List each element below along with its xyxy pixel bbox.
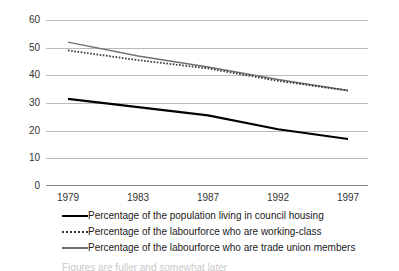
legend-item-working-class: Percentage of the labourforce who are wo… [62,224,392,240]
dotted-line-icon [62,226,88,238]
x-tick-1992: 1992 [258,192,298,204]
y-tick-10: 10 [0,153,40,163]
y-tick-50: 50 [0,43,40,53]
legend-item-council-housing: Percentage of the population living in c… [62,208,392,224]
series-container [46,20,368,186]
y-tick-0: 0 [0,181,40,191]
series-line-trade-union-members [68,42,348,90]
x-tick-1983: 1983 [118,192,158,204]
line-chart: 60 50 40 30 20 10 0 1979 1983 1987 1992 … [0,0,399,271]
y-tick-20: 20 [0,126,40,136]
chart-legend: Percentage of the population living in c… [62,208,392,256]
y-tick-60: 60 [0,15,40,25]
solid-grey-line-icon [62,242,88,254]
y-tick-40: 40 [0,70,40,80]
solid-black-line-icon [62,210,88,222]
legend-item-trade-union-members: Percentage of the labourforce who are tr… [62,240,392,256]
x-axis-labels: 1979 1983 1987 1992 1997 [0,192,399,206]
x-tick-1997: 1997 [328,192,368,204]
legend-label-working-class: Percentage of the labourforce who are wo… [88,226,321,238]
series-line-council-housing [68,99,348,139]
series-line-working-class [68,50,348,90]
footnote-clipped: Figures are fuller and somewhat later [62,262,392,271]
x-tick-1987: 1987 [188,192,228,204]
legend-label-trade-union-members: Percentage of the labourforce who are tr… [88,242,355,254]
y-axis-labels: 60 50 40 30 20 10 0 [0,0,40,271]
x-tick-1979: 1979 [48,192,88,204]
legend-label-council-housing: Percentage of the population living in c… [88,210,324,222]
y-tick-30: 30 [0,98,40,108]
plot-area [46,20,368,186]
